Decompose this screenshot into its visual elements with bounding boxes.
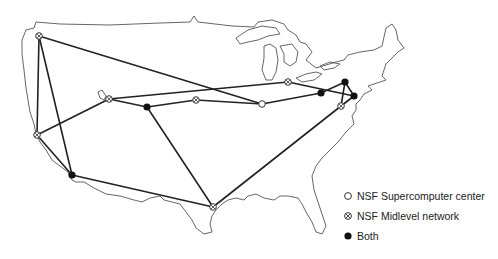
legend-item-supercomputer: NSF Supercomputer center bbox=[343, 186, 485, 206]
node-palo-alto bbox=[34, 132, 41, 139]
legend-item-both: Both bbox=[343, 226, 485, 246]
network-nodes bbox=[34, 33, 358, 211]
legend-label: NSF Supercomputer center bbox=[357, 190, 485, 202]
node-lincoln bbox=[193, 97, 200, 104]
legend-label: NSF Midlevel network bbox=[357, 210, 459, 222]
lake-superior bbox=[236, 26, 280, 44]
node-boulder bbox=[143, 103, 150, 110]
node-college-park bbox=[338, 103, 345, 110]
node-ithaca bbox=[341, 78, 348, 85]
lake-erie bbox=[296, 72, 322, 82]
legend: NSF Supercomputer center NSF Midlevel ne… bbox=[343, 186, 485, 246]
lake-michigan bbox=[262, 44, 278, 80]
node-pittsburgh bbox=[317, 89, 324, 96]
network-links bbox=[37, 36, 354, 207]
node-princeton bbox=[350, 92, 357, 99]
legend-item-midlevel: NSF Midlevel network bbox=[343, 206, 485, 226]
node-urbana bbox=[259, 101, 266, 108]
node-houston bbox=[210, 204, 217, 211]
node-ann-arbor bbox=[285, 79, 292, 86]
crossed-circle-icon bbox=[343, 211, 353, 221]
lake-huron bbox=[280, 44, 298, 66]
legend-label: Both bbox=[357, 230, 379, 242]
great-salt-lake bbox=[98, 90, 106, 100]
filled-circle-icon bbox=[343, 231, 353, 241]
open-circle-icon bbox=[343, 191, 353, 201]
node-san-diego bbox=[68, 171, 75, 178]
node-salt-lake bbox=[106, 96, 113, 103]
node-seattle bbox=[36, 33, 43, 40]
